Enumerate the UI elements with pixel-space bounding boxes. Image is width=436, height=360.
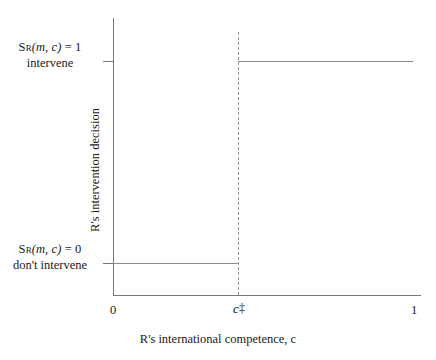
y-label-dont-intervene-equation-rest: = 0 — [61, 242, 81, 256]
y-label-intervene-equation-s: S — [19, 40, 26, 54]
y-axis-tick-intervene — [103, 61, 113, 62]
step-function-figure: SR(m, c) = 1 intervene SR(m, c) = 0 don'… — [0, 0, 436, 360]
y-label-dont-intervene: SR(m, c) = 0 don't intervene — [0, 242, 100, 273]
y-label-intervene-equation-rest: = 1 — [61, 40, 81, 54]
y-label-intervene-equation: SR(m, c) = 1 — [0, 40, 100, 55]
x-axis-line — [113, 295, 421, 296]
threshold-dashed-line — [238, 32, 239, 295]
x-axis-tick-label-zero: 0 — [104, 303, 122, 318]
y-label-dont-intervene-description: don't intervene — [0, 258, 100, 273]
y-label-intervene-equation-args: (m, c) — [32, 40, 62, 54]
step-segment-intervene — [238, 61, 413, 62]
y-label-intervene-description: intervene — [0, 56, 100, 71]
x-axis-tick-label-one: 1 — [405, 303, 423, 318]
y-axis-line — [113, 18, 114, 296]
y-label-dont-intervene-equation-s: S — [19, 242, 26, 256]
y-axis-tick-dont-intervene — [103, 263, 113, 264]
step-segment-dont-intervene — [113, 263, 239, 264]
y-axis-title: R's intervention decision — [88, 108, 103, 232]
y-label-intervene: SR(m, c) = 1 intervene — [0, 40, 100, 71]
x-axis-tick-label-threshold: c‡ — [222, 301, 256, 317]
threshold-label-marker-icon: ‡ — [239, 301, 245, 315]
y-label-dont-intervene-equation: SR(m, c) = 0 — [0, 242, 100, 257]
y-label-dont-intervene-equation-args: (m, c) — [32, 242, 62, 256]
x-axis-title: R's international competence, c — [0, 332, 436, 347]
